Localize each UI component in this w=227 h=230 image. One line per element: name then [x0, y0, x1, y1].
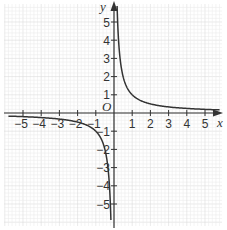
y-axis-label: y [98, 0, 106, 14]
x-tick-label: 5 [202, 117, 209, 131]
y-tick-label: 4 [103, 34, 110, 48]
x-tick-label: 2 [147, 117, 154, 131]
x-tick-label: −5 [14, 117, 28, 131]
x-tick-label: −2 [69, 117, 83, 131]
origin-label: O [102, 99, 112, 114]
x-axis-label: x [216, 115, 223, 130]
y-tick-label: −1 [96, 125, 110, 139]
grid [4, 4, 222, 226]
x-tick-label: 1 [129, 117, 136, 131]
x-tick-label: 3 [165, 117, 172, 131]
y-tick-label: 3 [103, 52, 110, 66]
x-tick-label: 4 [183, 117, 190, 131]
y-tick-label: 2 [103, 70, 110, 84]
y-tick-label: −4 [96, 179, 110, 193]
y-tick-label: −5 [96, 198, 110, 212]
y-tick-label: 5 [103, 16, 110, 30]
plot-area: −5−4−3−2−112345−5−4−3−2−112345 x y O [0, 0, 227, 230]
x-tick-label: −4 [32, 117, 46, 131]
hyperbola-graph: −5−4−3−2−112345−5−4−3−2−112345 x y O [0, 0, 227, 230]
